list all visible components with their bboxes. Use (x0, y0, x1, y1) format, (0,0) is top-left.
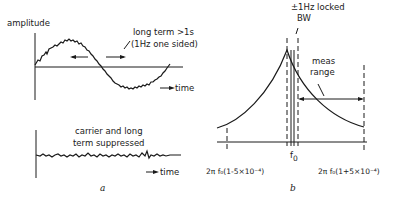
right-frequency-label: 2π f₀(1+5×10⁻⁴) (318, 167, 380, 176)
diagram-canvas: amplitude long term >1s (1Hz one sided) … (0, 0, 393, 199)
bw-label-line2: BW (297, 13, 312, 23)
range-label: range (310, 67, 335, 77)
bw-label-line1: ±1Hz locked (291, 2, 345, 12)
range-arrow-right-head (358, 97, 364, 101)
suppressed-noise-trace (36, 151, 181, 158)
panel-a-top: amplitude long term >1s (1Hz one sided) … (7, 18, 198, 100)
leader-line (124, 41, 130, 49)
suppressed-label: term suppressed (73, 138, 145, 148)
panel-b-caption: b (290, 183, 296, 193)
right-arrow-head (120, 55, 126, 59)
time-label-bottom: time (160, 167, 179, 177)
time-label-top: time (175, 83, 194, 93)
carrier-label: carrier and long (75, 126, 143, 136)
panel-b: ±1Hz locked BW meas range f0 2π f₀(1-5×1… (206, 2, 380, 193)
f0-label: f0 (290, 150, 298, 163)
range-leader (318, 84, 324, 96)
range-arrow-left-head (298, 97, 304, 101)
time-arrow-head-bottom (153, 170, 159, 174)
left-arrow-head (70, 55, 76, 59)
panel-a-caption: a (100, 183, 105, 193)
meas-label: meas (312, 56, 336, 66)
left-frequency-label: 2π f₀(1-5×10⁻⁴) (206, 167, 264, 176)
long-term-label: long term >1s (133, 27, 194, 37)
amplitude-label: amplitude (7, 18, 50, 28)
panel-a-bottom: carrier and long term suppressed time a (36, 126, 181, 193)
bw-leader (296, 28, 298, 34)
one-sided-label: (1Hz one sided) (131, 39, 198, 49)
